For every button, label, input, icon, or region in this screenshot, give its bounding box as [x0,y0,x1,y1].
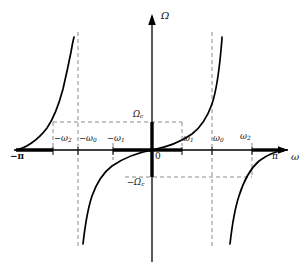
x-axis-left-end-label: −π [10,152,24,161]
origin-label: 0 [155,152,161,161]
x-axis-label: ω [291,152,299,162]
x-axis-right-end-label: π [272,152,278,161]
tick-label-neg-omega1: −ω1 [107,134,125,144]
curve-branch-middle-lower [83,150,152,244]
curve-branch-right [230,150,286,244]
tick-label-pos-omega2: ω2 [240,132,251,142]
y-axis-label: Ω [161,11,169,21]
tick-label-pos-omega0: ω0 [213,134,224,144]
tick-label-pos-omega1: ω1 [183,134,194,144]
y-axis-arrowhead [148,14,156,25]
plot-canvas [0,0,306,275]
tick-label-neg-omega0: −ω0 [79,134,97,144]
tick-label-omega-c-positive: Ωc [133,110,143,120]
tick-label-neg-omega2: −ω2 [54,134,72,144]
tick-label-omega-c-negative: −Ωc [127,178,144,188]
frequency-warping-figure: Ω ω −π π 0 −ω2 −ω0 −ω1 ω1 ω0 ω2 Ωc −Ωc [0,0,306,275]
